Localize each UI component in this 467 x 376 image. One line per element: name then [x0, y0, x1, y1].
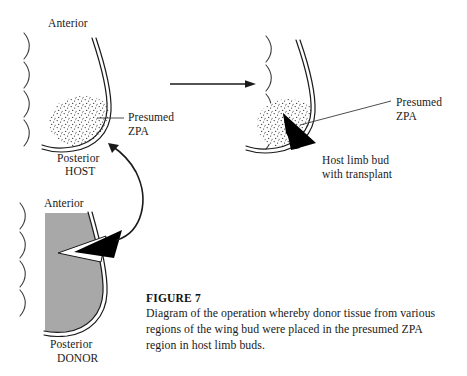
donor-limb-bud	[20, 203, 122, 336]
figure-number-label: FIGURE 7	[146, 292, 446, 304]
presumed-zpa-label-after-line1: Presumed	[396, 95, 442, 110]
host-specimen-label: HOST	[65, 164, 95, 179]
host-limb-bud-before	[24, 33, 124, 152]
anterior-label-donor: Anterior	[44, 196, 84, 211]
donor-body-fill	[45, 213, 103, 332]
figure-7-panel: Anterior Posterior HOST Presumed ZPA Pre…	[0, 0, 467, 376]
presumed-zpa-label-after-line2: ZPA	[396, 109, 417, 124]
somite-brackets-host	[24, 33, 29, 146]
donor-specimen-label: DONOR	[57, 351, 98, 366]
presumed-zpa-label-host-line2: ZPA	[128, 124, 149, 139]
host-limb-bud-with-transplant	[246, 36, 391, 153]
host-transplant-caption-line2: with transplant	[322, 167, 392, 182]
somite-brackets-donor	[20, 203, 25, 316]
presumed-zpa-label-host-line1: Presumed	[128, 110, 174, 125]
graft-transfer-arrow	[108, 143, 143, 240]
posterior-label-donor: Posterior	[50, 337, 92, 352]
zpa-leader-line-host-after	[300, 101, 391, 125]
figure-caption-block: FIGURE 7 Diagram of the operation whereb…	[146, 292, 446, 353]
host-transplant-caption-line1: Host limb bud	[322, 153, 389, 168]
transformation-arrow	[170, 80, 256, 88]
anterior-label-host: Anterior	[48, 16, 88, 31]
figure-caption-text: Diagram of the operation whereby donor t…	[146, 305, 446, 353]
